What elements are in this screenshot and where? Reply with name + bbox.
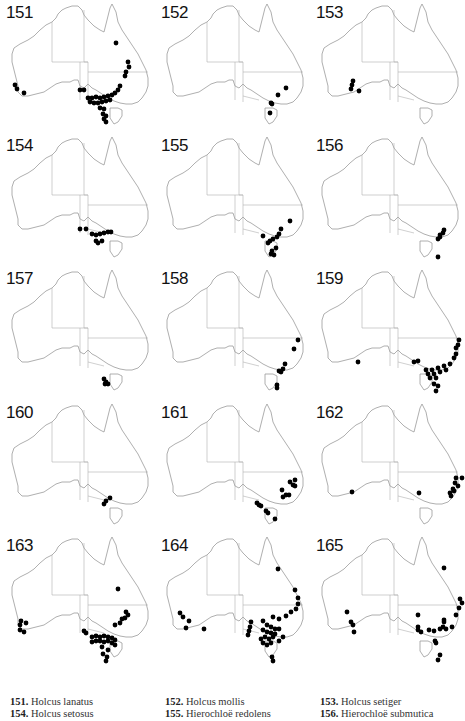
occurrence-dot (352, 630, 357, 635)
occurrence-dot (105, 655, 110, 660)
occurrence-dot (293, 484, 298, 489)
occurrence-dot (116, 587, 121, 592)
occurrence-dot (261, 619, 266, 624)
caption-entry: 152. Holcus mollis (165, 696, 245, 707)
caption-entry: 151. Holcus lanatus (10, 696, 93, 707)
distribution-map-161: 161 (155, 400, 310, 535)
tasmania-outline (265, 108, 277, 124)
distribution-map-160: 160 (0, 400, 155, 535)
occurrence-dot (296, 338, 301, 343)
occurrence-dot (454, 613, 459, 618)
occurrence-dot (357, 89, 362, 94)
occurrence-dot (293, 478, 298, 483)
occurrence-dot (90, 635, 95, 640)
caption-species: Hierochloë submutica (341, 708, 433, 719)
caption-species: Holcus setiger (341, 696, 401, 707)
map-number: 164 (161, 536, 188, 556)
occurrence-dot (276, 93, 281, 98)
occurrence-dot (202, 627, 207, 632)
occurrence-dot (434, 376, 439, 381)
distribution-map-163: 163 (0, 533, 155, 668)
occurrence-dot (22, 91, 27, 96)
occurrence-dot (436, 384, 441, 389)
occurrence-dot (90, 232, 95, 237)
occurrence-dot (442, 620, 447, 625)
occurrence-dot (178, 611, 183, 616)
tasmania-outline (420, 241, 432, 257)
occurrence-dot (283, 362, 288, 367)
distribution-map-157: 157 (0, 266, 155, 401)
caption-number: 152. (165, 696, 183, 707)
occurrence-dot (78, 227, 83, 232)
caption-entry: 156. Hierochloë submutica (320, 708, 433, 719)
occurrence-dot (444, 368, 449, 373)
occurrence-dot (266, 241, 271, 246)
occurrence-dot (102, 107, 107, 112)
map-number: 156 (316, 136, 343, 156)
occurrence-dot (351, 79, 356, 84)
occurrence-dot (88, 100, 93, 105)
caption-number: 154. (10, 708, 28, 719)
occurrence-dot (114, 41, 119, 46)
tasmania-outline (420, 508, 432, 524)
occurrence-dot (434, 641, 439, 646)
occurrence-dot (457, 606, 462, 611)
occurrence-dot (84, 631, 89, 636)
occurrence-dot (249, 620, 254, 625)
occurrence-dot (102, 231, 107, 236)
occurrence-dot (350, 490, 355, 495)
occurrence-dot (265, 630, 270, 635)
occurrence-dot (266, 511, 271, 516)
occurrence-dot (281, 635, 286, 640)
occurrence-dot (271, 659, 276, 664)
occurrence-dot (268, 111, 273, 116)
occurrence-dot (123, 74, 128, 79)
occurrence-dot (90, 640, 95, 645)
occurrence-dot (276, 567, 281, 572)
caption-species: Holcus mollis (186, 696, 245, 707)
occurrence-dot (277, 639, 282, 644)
occurrence-dot (19, 619, 24, 624)
occurrence-dot (292, 347, 297, 352)
occurrence-dot (106, 648, 111, 653)
occurrence-dot (102, 502, 107, 507)
occurrence-dot (100, 100, 105, 105)
occurrence-dot (104, 99, 109, 104)
occurrence-dot (272, 253, 277, 258)
occurrence-dot (419, 630, 424, 635)
caption-species: Hierochloë redolens (186, 708, 271, 719)
occurrence-dot (269, 641, 274, 646)
occurrence-dot (124, 70, 129, 75)
caption-entry: 154. Holcus setosus (10, 708, 94, 719)
map-number: 160 (6, 403, 33, 423)
occurrence-dot (102, 634, 107, 639)
map-number: 153 (316, 3, 343, 23)
occurrence-dot (454, 352, 459, 357)
occurrence-dot (279, 370, 284, 375)
occurrence-dot (412, 360, 417, 365)
map-number: 163 (6, 536, 33, 556)
occurrence-dot (456, 484, 461, 489)
occurrence-dot (428, 376, 433, 381)
caption-species: Holcus lanatus (31, 696, 93, 707)
occurrence-dot (444, 627, 449, 632)
occurrence-dot (98, 232, 103, 237)
occurrence-dot (356, 360, 361, 365)
occurrence-dot (118, 621, 123, 626)
occurrence-dot (15, 87, 20, 92)
map-number: 157 (6, 269, 33, 289)
occurrence-dot (106, 382, 111, 387)
occurrence-dot (345, 610, 350, 615)
occurrence-dot (277, 617, 282, 622)
occurrence-dot (113, 623, 118, 628)
occurrence-dot (416, 613, 421, 618)
distribution-map-153: 153 (310, 0, 465, 135)
occurrence-dot (450, 625, 455, 630)
occurrence-dot (434, 389, 439, 394)
occurrence-dot (126, 60, 131, 65)
occurrence-dot (246, 633, 251, 638)
occurrence-dot (280, 488, 285, 493)
occurrence-dot (436, 255, 441, 260)
caption-number: 155. (165, 708, 183, 719)
occurrence-dot (109, 230, 114, 235)
